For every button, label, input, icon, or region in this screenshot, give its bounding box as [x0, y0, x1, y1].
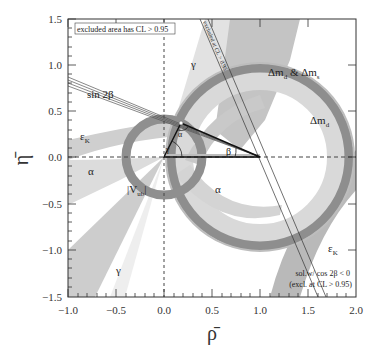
y-tick-label: −1.5 [42, 291, 62, 303]
sin2b-label: sin 2β [87, 88, 114, 100]
gamma-label-top: γ [190, 58, 196, 70]
x-axis-label: ρ̄ [207, 322, 221, 345]
y-axis-label: η̄ [10, 151, 33, 165]
x-tick-label: 0.0 [157, 304, 171, 316]
x-tick-label: 1.5 [301, 304, 315, 316]
ckm-unitarity-plot: −1.0 −0.5 0.0 0.5 1.0 1.5 2.0 1.5 1.0 0.… [0, 0, 383, 350]
y-tick-label: −1.0 [42, 244, 62, 256]
y-tick-label: 1.0 [48, 59, 62, 71]
beta-label: β [226, 146, 231, 157]
cos2b-note-line2: (excl. at CL > 0.95) [289, 280, 352, 289]
plot-area [68, 19, 356, 297]
legend-text: excluded area has CL > 0.95 [77, 25, 168, 34]
x-tick-label: 0.5 [205, 304, 219, 316]
alpha-label-right: α [215, 183, 221, 195]
x-tick-label: 1.0 [253, 304, 267, 316]
epsk-label-right: εK [328, 242, 338, 257]
apex-marker [179, 121, 183, 125]
y-tick-label: 0.0 [48, 151, 62, 163]
y-tick-label: 1.5 [48, 13, 62, 25]
y-tick-label: −0.5 [42, 198, 62, 210]
gamma-apex-label: γ [165, 145, 170, 154]
x-tick-label: −1.0 [58, 304, 78, 316]
cos2b-note-line1: sol.w/ cos 2β < 0 [295, 269, 350, 278]
y-tick-label: 0.5 [48, 105, 62, 117]
alpha-label-left: α [88, 165, 94, 177]
x-tick-label: −0.5 [106, 304, 126, 316]
gamma-label-bottom: γ [115, 264, 121, 276]
x-tick-label: 2.0 [349, 304, 363, 316]
